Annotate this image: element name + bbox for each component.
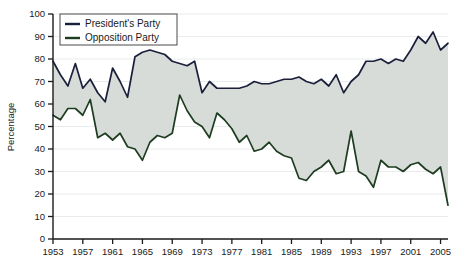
y-tick-label-60: 60 [34, 98, 45, 109]
chart-container: 0102030405060708090100 19531957196119651… [0, 0, 460, 277]
x-tick-label-1973: 1973 [191, 246, 212, 257]
y-tick-label-80: 80 [34, 53, 45, 64]
x-tick-label-1981: 1981 [251, 246, 272, 257]
x-tick-label-1989: 1989 [311, 246, 332, 257]
legend: President's PartyOpposition Party [60, 14, 177, 45]
line-chart: 0102030405060708090100 19531957196119651… [0, 0, 460, 277]
y-tick-label-100: 100 [29, 8, 45, 19]
y-tick-label-0: 0 [40, 233, 45, 244]
y-tick-label-30: 30 [34, 166, 45, 177]
legend-label-opposition-party: Opposition Party [85, 32, 159, 43]
x-tick-label-2005: 2005 [430, 246, 451, 257]
x-tick-label-1953: 1953 [42, 246, 63, 257]
x-tick-label-1957: 1957 [72, 246, 93, 257]
x-tick-label-1977: 1977 [221, 246, 242, 257]
x-tick-label-1965: 1965 [132, 246, 153, 257]
y-tick-label-40: 40 [34, 143, 45, 154]
y-tick-label-50: 50 [34, 121, 45, 132]
x-tick-label-1993: 1993 [341, 246, 362, 257]
legend-label-presidents-party: President's Party [85, 18, 160, 29]
y-tick-label-70: 70 [34, 76, 45, 87]
x-tick-label-1961: 1961 [102, 246, 123, 257]
y-tick-label-90: 90 [34, 31, 45, 42]
x-tick-label-1969: 1969 [162, 246, 183, 257]
x-tick-label-1985: 1985 [281, 246, 302, 257]
x-tick-label-2001: 2001 [400, 246, 421, 257]
x-tick-label-1997: 1997 [370, 246, 391, 257]
y-axis-title: Percentage [5, 103, 16, 152]
y-tick-label-10: 10 [34, 211, 45, 222]
y-tick-label-20: 20 [34, 188, 45, 199]
